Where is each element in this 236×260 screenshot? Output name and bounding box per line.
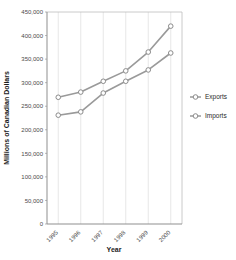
- data-point-imports-2000: [168, 51, 173, 56]
- x-tick-label-1998: 1998: [113, 229, 127, 243]
- y-tick-label: 150,000: [21, 151, 43, 157]
- data-point-imports-1998: [123, 79, 128, 84]
- legend-label-imports: Imports: [205, 112, 227, 120]
- y-tick-label: 400,000: [21, 33, 43, 39]
- data-point-exports-1995: [56, 95, 61, 100]
- x-tick-label-1999: 1999: [135, 229, 149, 243]
- line-chart: 050,000100,000150,000200,000250,000300,0…: [0, 0, 236, 260]
- data-point-imports-1995: [56, 113, 61, 118]
- y-axis-title: Millions of Canadian Dollars: [3, 71, 10, 165]
- y-tick-label: 250,000: [21, 103, 43, 109]
- data-point-exports-1997: [101, 79, 106, 84]
- plot-background: [47, 12, 182, 224]
- y-axis-tick-labels: 050,000100,000150,000200,000250,000300,0…: [21, 9, 47, 227]
- y-tick-label: 0: [40, 221, 44, 227]
- data-point-imports-1996: [78, 110, 83, 115]
- data-point-exports-1998: [123, 69, 128, 74]
- chart-legend: ExportsImports: [190, 93, 228, 120]
- legend-item-exports[interactable]: Exports: [190, 93, 228, 101]
- data-point-imports-1999: [146, 68, 151, 73]
- y-tick-label: 200,000: [21, 127, 43, 133]
- legend-marker-imports: [193, 114, 198, 119]
- x-tick-label-2000: 2000: [158, 229, 172, 243]
- data-point-imports-1997: [101, 91, 106, 96]
- x-axis-tick-labels: 199519961997199819992000: [45, 229, 172, 243]
- legend-item-imports[interactable]: Imports: [190, 112, 227, 120]
- x-axis-title: Year: [107, 246, 122, 253]
- y-tick-label: 300,000: [21, 80, 43, 86]
- data-point-exports-1996: [78, 90, 83, 95]
- data-point-exports-2000: [168, 24, 173, 29]
- chart-canvas: 050,000100,000150,000200,000250,000300,0…: [0, 0, 236, 260]
- x-tick-label-1995: 1995: [45, 229, 59, 243]
- data-point-exports-1999: [146, 50, 151, 55]
- x-tick-label-1996: 1996: [68, 229, 82, 243]
- y-tick-label: 450,000: [21, 9, 43, 15]
- x-tick-label-1997: 1997: [90, 229, 104, 243]
- y-tick-label: 100,000: [21, 174, 43, 180]
- y-tick-label: 50,000: [25, 198, 44, 204]
- legend-marker-exports: [193, 95, 198, 100]
- legend-label-exports: Exports: [205, 93, 228, 101]
- y-tick-label: 350,000: [21, 56, 43, 62]
